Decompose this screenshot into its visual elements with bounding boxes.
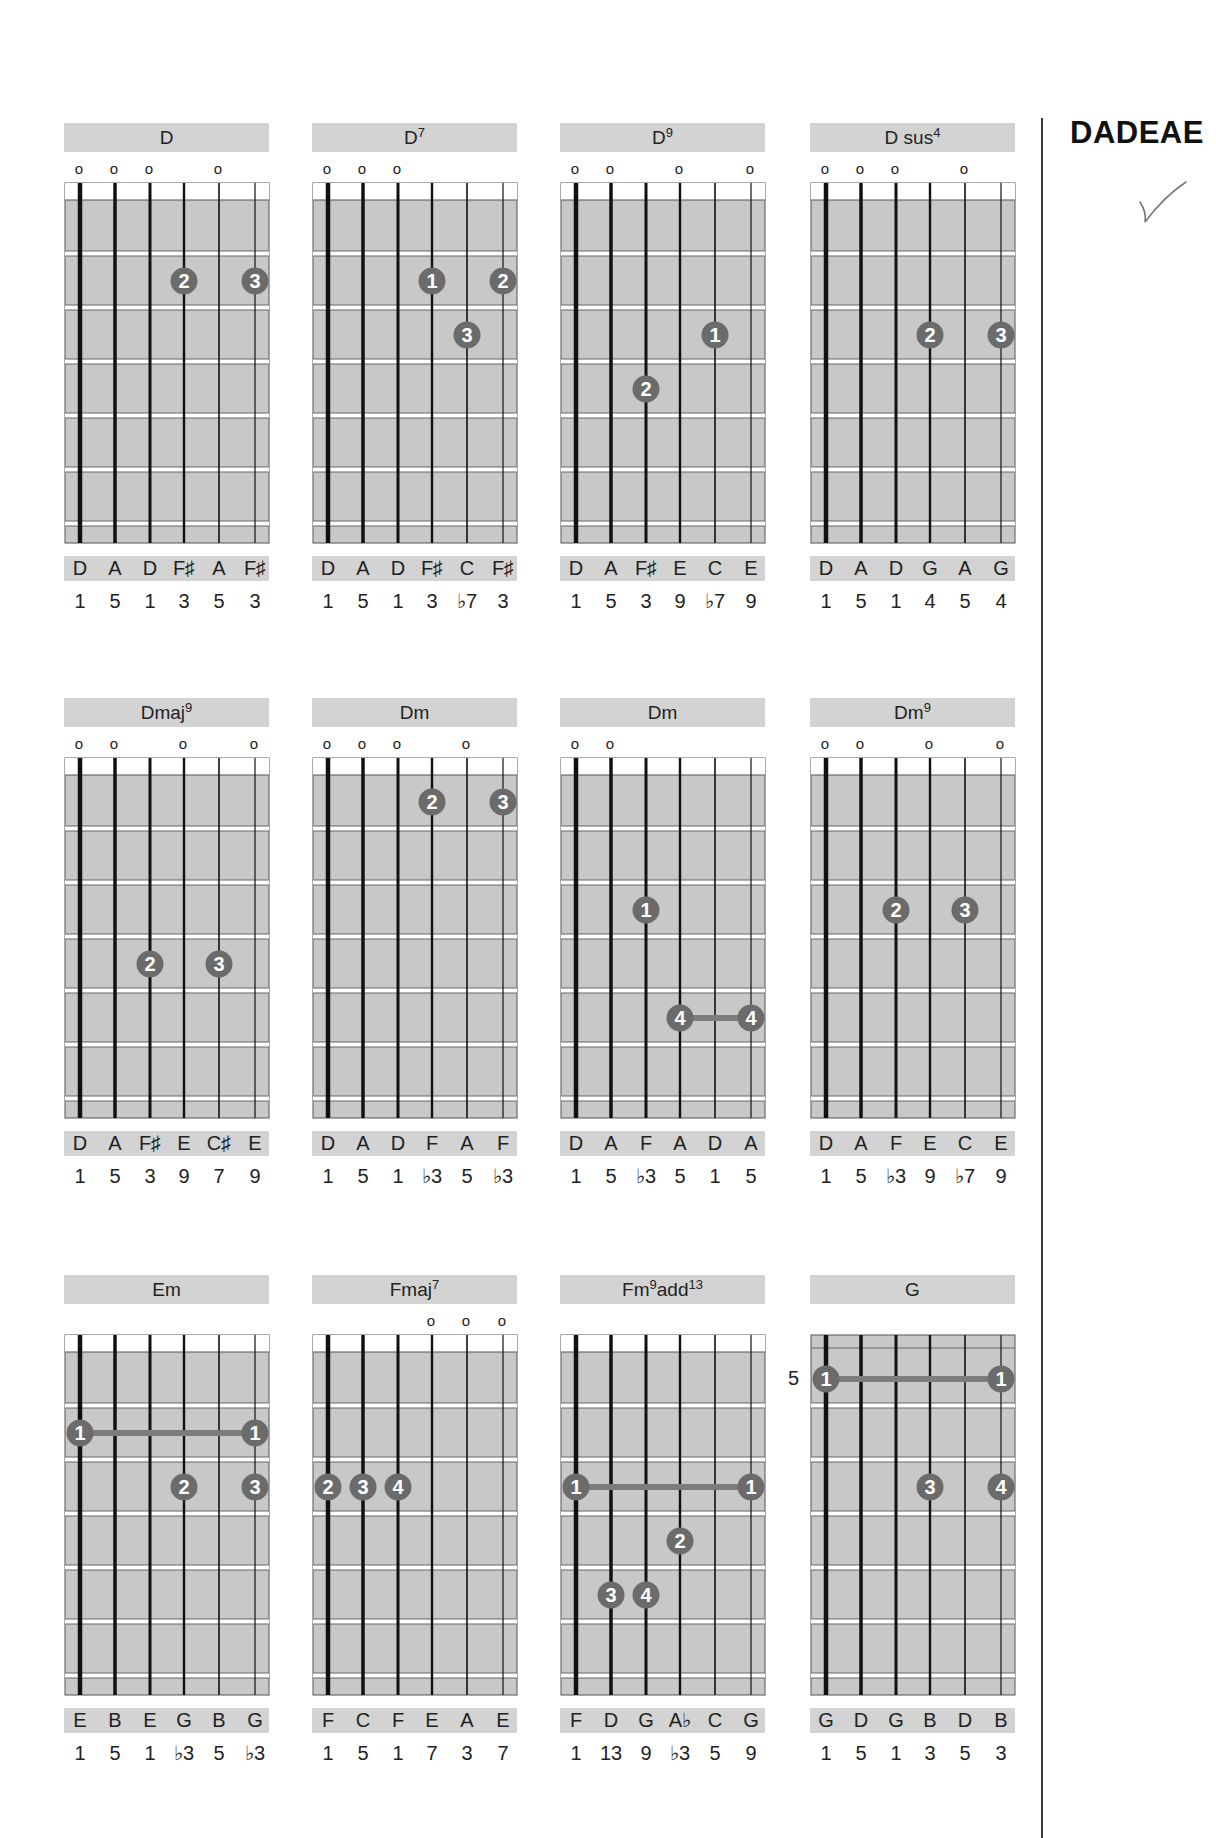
open-string-icon: o (852, 161, 868, 177)
open-string-icon: o (956, 161, 972, 177)
chord-title: Fmaj7 (312, 1275, 517, 1304)
open-string-markers: oooo (810, 736, 1015, 754)
note-name: E (167, 1131, 201, 1156)
note-name: F (415, 1131, 449, 1156)
interval-degree: 1 (381, 589, 415, 613)
open-string-icon: o (458, 1313, 474, 1329)
interval-degree: 1 (879, 589, 913, 613)
open-string-icon: o (389, 736, 405, 752)
open-string-icon: o (106, 161, 122, 177)
open-string-icon: o (319, 161, 335, 177)
svg-text:3: 3 (357, 1476, 368, 1498)
open-string-icon: o (494, 1313, 510, 1329)
svg-text:2: 2 (674, 1530, 685, 1552)
interval-degree: 5 (594, 589, 628, 613)
finger-dot: 3 (917, 1474, 944, 1501)
finger-dot: 4 (385, 1474, 412, 1501)
checkmark-icon (1130, 178, 1190, 232)
open-string-icon: o (458, 736, 474, 752)
finger-dot: 2 (171, 268, 198, 295)
chord-title: Dm (312, 698, 517, 727)
open-string-icon: o (319, 736, 335, 752)
note-name: C (948, 1131, 982, 1156)
interval-degree: 3 (984, 1741, 1018, 1765)
svg-text:3: 3 (213, 953, 224, 975)
interval-degrees: 151♭35♭3 (64, 1741, 269, 1765)
interval-degree: 1 (133, 589, 167, 613)
chord-title: Em (64, 1275, 269, 1304)
note-name: G (809, 1708, 843, 1733)
finger-dot: 3 (242, 1474, 269, 1501)
finger-dot: 2 (490, 268, 517, 295)
interval-degree: 1 (311, 1741, 345, 1765)
note-name: G (984, 556, 1018, 581)
note-name: D (809, 556, 843, 581)
svg-text:1: 1 (570, 1476, 581, 1498)
interval-degree: 5 (948, 589, 982, 613)
interval-degree: ♭7 (948, 1164, 982, 1188)
open-string-markers: oooo (560, 161, 765, 179)
note-name: C (450, 556, 484, 581)
interval-degree: 5 (346, 589, 380, 613)
interval-degree: 5 (346, 1164, 380, 1188)
open-string-icon: o (106, 736, 122, 752)
svg-text:2: 2 (322, 1476, 333, 1498)
chord-diagram: Dm9oooo23DAFECE15♭39♭79 (810, 698, 1015, 1198)
svg-text:4: 4 (995, 1476, 1007, 1498)
interval-degree: 5 (698, 1741, 732, 1765)
svg-text:4: 4 (674, 1007, 686, 1029)
interval-degree: 3 (629, 589, 663, 613)
interval-degrees: 151♭35♭3 (312, 1164, 517, 1188)
svg-text:3: 3 (461, 324, 472, 346)
interval-degrees: 1513♭73 (312, 589, 517, 613)
interval-degree: 1 (809, 1164, 843, 1188)
svg-text:3: 3 (959, 899, 970, 921)
interval-degrees: 15♭3515 (560, 1164, 765, 1188)
note-name: F (879, 1131, 913, 1156)
chord-diagram: D9oooo12DAF♯ECE1539♭79 (560, 123, 765, 623)
interval-degrees: 151353 (64, 589, 269, 613)
interval-degree: 5 (98, 589, 132, 613)
interval-degree: 1 (311, 1164, 345, 1188)
note-name: D (381, 556, 415, 581)
chord-diagram: Fm9add1311234FDGA♭CG1139♭359 (560, 1275, 765, 1775)
fretboard: 23 (64, 757, 270, 1123)
interval-degree: 1 (63, 1164, 97, 1188)
note-name: C (346, 1708, 380, 1733)
note-name: A (663, 1131, 697, 1156)
finger-dot: 4 (988, 1474, 1015, 1501)
finger-dot: 3 (350, 1474, 377, 1501)
interval-degree: 3 (913, 1741, 947, 1765)
interval-degrees: 1539♭79 (560, 589, 765, 613)
open-string-icon: o (354, 736, 370, 752)
note-name: G (734, 1708, 768, 1733)
note-names: EBEGBG (64, 1708, 269, 1733)
interval-degree: 1 (381, 1164, 415, 1188)
note-name: F♯ (415, 556, 449, 581)
interval-degree: 1 (311, 589, 345, 613)
note-name: A♭ (663, 1708, 697, 1733)
note-name: F♯ (238, 556, 272, 581)
svg-text:2: 2 (426, 791, 437, 813)
note-names: FDGA♭CG (560, 1708, 765, 1733)
interval-degree: 3 (167, 589, 201, 613)
note-name: E (238, 1131, 272, 1156)
svg-text:4: 4 (745, 1007, 757, 1029)
open-string-markers: oooo (64, 736, 269, 754)
note-name: A (948, 556, 982, 581)
interval-degree: 9 (984, 1164, 1018, 1188)
interval-degrees: 151737 (312, 1741, 517, 1765)
chord-title: D sus4 (810, 123, 1015, 152)
note-name: D (879, 556, 913, 581)
chord-diagram: Em1123EBEGBG151♭35♭3 (64, 1275, 269, 1775)
svg-text:3: 3 (249, 1476, 260, 1498)
note-name: A (98, 556, 132, 581)
interval-degree: ♭3 (415, 1164, 449, 1188)
note-names: DAF♯EC♯E (64, 1131, 269, 1156)
finger-dot: 3 (952, 897, 979, 924)
open-string-markers: oooo (64, 161, 269, 179)
interval-degree: 3 (486, 589, 520, 613)
interval-degree: 5 (734, 1164, 768, 1188)
interval-degree: 13 (594, 1741, 628, 1765)
fretboard: 12 (560, 182, 766, 548)
